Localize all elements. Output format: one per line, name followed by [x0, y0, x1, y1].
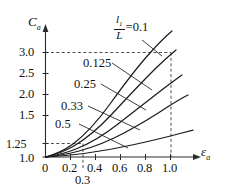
curve-label-0-5: 0.5 — [55, 118, 71, 131]
y-tick-label-1-25: 1.25 — [6, 138, 26, 150]
y-axis-arrow — [43, 24, 49, 32]
fraction-value: 0.1 — [133, 20, 149, 35]
fraction-l1-over-L: l1 L — [114, 14, 125, 41]
y-tick-label-2-5: 2.5 — [19, 67, 34, 80]
curve-label-0-25: 0.25 — [74, 78, 96, 91]
x-tick-label-0-3: 0.3 — [75, 174, 90, 187]
fraction-equals: = — [126, 20, 133, 35]
curve-label-0-125: 0.125 — [83, 57, 111, 70]
axes — [43, 24, 202, 160]
x-tick-label-0-8: 0.8 — [137, 162, 152, 175]
curve-series-0-25 — [46, 75, 183, 157]
y-tick-label-3-0: 3.0 — [19, 46, 34, 59]
chart-figure: 3.0 2.5 2.0 1.5 1.25 1.0 0 0.2 0.4 0.6 0… — [0, 0, 226, 191]
x-axis-title: εa — [201, 145, 210, 162]
x-tick-label-1-0: 1.0 — [162, 162, 177, 175]
x-axis-arrow — [193, 154, 201, 160]
fraction-numerator: l1 — [114, 14, 125, 28]
leader-0-125 — [112, 63, 152, 90]
x-tick-label-0-6: 0.6 — [112, 162, 127, 175]
y-axis-title: Ca — [28, 15, 41, 32]
y-tick-label-1-5: 1.5 — [19, 109, 34, 122]
curve-label-0-33: 0.33 — [61, 100, 83, 113]
y-tick-label-1-0: 1.0 — [19, 152, 34, 165]
y-tick-label-2-0: 2.0 — [19, 88, 34, 101]
parameter-fraction-label: l1 L = 0.1 — [114, 14, 148, 41]
x-tick-label-0: 0 — [42, 162, 48, 175]
data-curves — [46, 31, 194, 157]
fraction-denominator: L — [114, 30, 124, 41]
